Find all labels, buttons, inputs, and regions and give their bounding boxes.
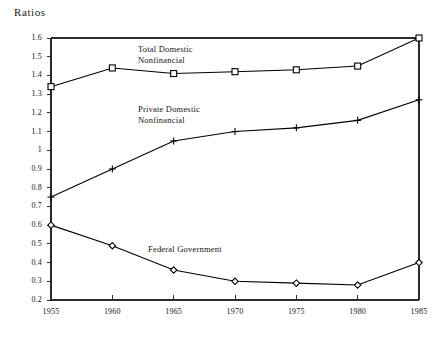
x-tick-label: 1985 [402,307,436,316]
marker-diamond [293,280,299,286]
y-tick-label: 1 [18,145,42,154]
series-label-federal-line1: Federal Government [148,244,222,255]
data-point-private-domestic-nonfinancial [293,124,300,131]
series-line-federal-government [51,225,419,285]
y-tick-label: 1.6 [18,33,42,42]
marker-diamond [170,267,176,273]
data-point-total-domestic-nonfinancial [232,69,238,75]
ratios-line-chart: Ratios 0.20.30.40.50.60.70.80.911.11.21.… [0,0,448,340]
data-point-private-domestic-nonfinancial [170,137,177,144]
y-tick-label: 1.1 [18,127,42,136]
series-label-total-domestic-nonfinancial: Total Domestic Nonfinancial [138,44,193,66]
data-point-federal-government [416,259,422,265]
marker-square [293,67,299,73]
y-tick-label: 0.4 [18,258,42,267]
series-label-total-line1: Total Domestic [138,44,193,55]
data-point-federal-government [354,282,360,288]
y-tick-label: 0.6 [18,220,42,229]
data-point-federal-government [48,222,54,228]
marker-diamond [416,259,422,265]
series-label-private-domestic-nonfinancial: Private Domestic Nonfinancial [138,104,200,126]
data-point-federal-government [170,267,176,273]
marker-diamond [232,278,238,284]
data-point-federal-government [232,278,238,284]
y-tick-label: 0.7 [18,201,42,210]
data-point-private-domestic-nonfinancial [354,117,361,124]
y-tick-label: 1.2 [18,108,42,117]
marker-diamond [109,243,115,249]
data-point-private-domestic-nonfinancial [416,96,423,103]
axis-frame [51,38,419,300]
y-tick-label: 1.3 [18,89,42,98]
data-point-total-domestic-nonfinancial [171,71,177,77]
data-point-federal-government [293,280,299,286]
series-label-private-line1: Private Domestic [138,104,200,115]
y-tick-label: 0.9 [18,164,42,173]
x-tick-label: 1975 [279,307,313,316]
marker-square [355,63,361,69]
series-line-total-domestic-nonfinancial [51,38,419,87]
plot-area [0,0,448,340]
series-label-federal-government: Federal Government [148,244,222,255]
data-point-private-domestic-nonfinancial [109,166,116,173]
data-point-total-domestic-nonfinancial [109,65,115,71]
series-label-private-line2: Nonfinancial [138,115,200,126]
marker-diamond [354,282,360,288]
series-layer [48,35,423,288]
series-line-private-domestic-nonfinancial [51,100,419,197]
y-tick-label: 0.5 [18,239,42,248]
x-tick-label: 1955 [34,307,68,316]
y-tick-label: 1.4 [18,70,42,79]
marker-square [232,69,238,75]
marker-square [416,35,422,41]
marker-square [109,65,115,71]
data-point-federal-government [109,243,115,249]
marker-square [48,84,54,90]
tick-marks [47,38,419,300]
data-point-private-domestic-nonfinancial [232,128,239,135]
data-point-total-domestic-nonfinancial [355,63,361,69]
data-point-total-domestic-nonfinancial [293,67,299,73]
x-tick-label: 1980 [341,307,375,316]
x-tick-label: 1965 [157,307,191,316]
data-point-total-domestic-nonfinancial [48,84,54,90]
marker-diamond [48,222,54,228]
data-point-private-domestic-nonfinancial [48,194,55,201]
y-tick-label: 1.5 [18,52,42,61]
marker-square [171,71,177,77]
y-tick-label: 0.3 [18,276,42,285]
x-tick-label: 1960 [95,307,129,316]
x-tick-label: 1970 [218,307,252,316]
data-point-total-domestic-nonfinancial [416,35,422,41]
y-tick-label: 0.8 [18,183,42,192]
series-label-total-line2: Nonfinancial [138,55,193,66]
y-tick-label: 0.2 [18,295,42,304]
